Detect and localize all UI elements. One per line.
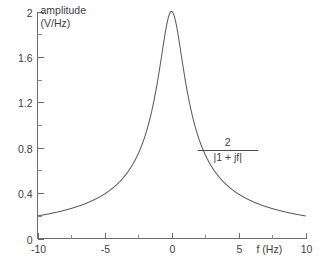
x-axis-title: f (Hz): [256, 243, 282, 255]
y-axis-title: amplitude (V/Hz): [41, 4, 87, 30]
data-series-group: [38, 12, 306, 216]
y-tick-label: 0: [27, 234, 33, 246]
x-tick-label: -10: [31, 243, 46, 255]
y-tick-label: 0.4: [18, 188, 33, 200]
amplitude-curve: [38, 12, 306, 216]
y-axis-title-line1: amplitude: [41, 4, 87, 16]
x-axis-ticks: [39, 233, 307, 239]
y-tick-label: 1.2: [18, 97, 33, 109]
curve-equation-annotation: 2 |1 + jf|: [198, 137, 258, 163]
y-axis-tick-labels: 00.40.81.21.62: [18, 7, 33, 246]
y-axis-ticks: [38, 13, 44, 240]
y-tick-label: 2: [27, 7, 33, 19]
x-tick-label: 10: [301, 243, 313, 255]
x-tick-label: 0: [170, 243, 176, 255]
y-axis-title-line2: (V/Hz): [41, 17, 71, 29]
y-tick-label: 1.6: [18, 52, 33, 64]
equation-numerator: 2: [198, 137, 258, 149]
y-tick-label: 0.8: [18, 143, 33, 155]
equation-denominator: |1 + jf|: [198, 152, 258, 164]
x-tick-label: -5: [101, 243, 110, 255]
chart-page: -10-50510 00.40.81.21.62 f (Hz) amplitud…: [0, 0, 330, 273]
chart-axes: [38, 12, 306, 239]
amplitude-spectrum-chart: -10-50510 00.40.81.21.62 f (Hz): [0, 0, 330, 273]
x-tick-label: 5: [237, 243, 243, 255]
